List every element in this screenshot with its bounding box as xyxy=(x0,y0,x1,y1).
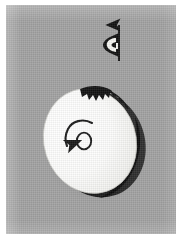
figure-artwork xyxy=(6,5,176,234)
figure-container: Spinning disc with angular velocity and … xyxy=(0,0,181,243)
figure-title: Spinning disc with angular velocity and … xyxy=(0,0,1,1)
hand-glyph xyxy=(103,33,119,57)
photo-plate xyxy=(6,5,176,234)
